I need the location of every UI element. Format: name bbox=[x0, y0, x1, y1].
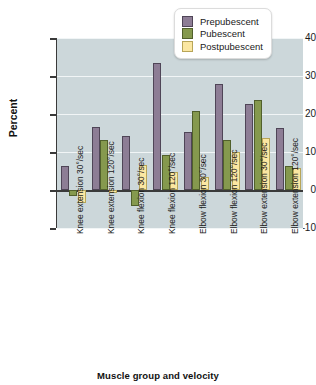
bar-0-2 bbox=[122, 136, 130, 190]
legend-swatch-prepubescent bbox=[182, 16, 193, 27]
legend-swatch-postpubescent bbox=[182, 41, 193, 52]
bar-0-1 bbox=[92, 127, 100, 190]
y-axis-tick bbox=[50, 76, 56, 78]
chart-legend: Prepubescent Pubescent Postpubescent bbox=[174, 8, 272, 59]
x-axis-label: Elbow flexion 120°/sec bbox=[230, 150, 239, 234]
gridline bbox=[57, 76, 303, 77]
bar-0-4 bbox=[184, 132, 192, 190]
y-axis-tick bbox=[50, 190, 56, 192]
x-axis-label: Knee extension 30°/sec bbox=[76, 146, 85, 234]
x-axis-label: Knee extension 120°/sec bbox=[107, 141, 116, 234]
y-axis-tick bbox=[50, 152, 56, 154]
bar-0-3 bbox=[153, 63, 161, 190]
bar-0-6 bbox=[245, 104, 253, 190]
legend-item[interactable]: Postpubescent bbox=[182, 41, 263, 52]
bar-chart: Percent –10010203040 Knee extension 30°/… bbox=[0, 0, 316, 385]
legend-swatch-pubescent bbox=[182, 28, 193, 39]
legend-label: Postpubescent bbox=[200, 41, 263, 52]
x-axis-label: Elbow flexion 30°/sec bbox=[199, 154, 208, 234]
legend-item[interactable]: Pubescent bbox=[182, 28, 263, 39]
bar-0-0 bbox=[61, 166, 69, 190]
x-axis-label: Elbow extension 120°/sec bbox=[291, 138, 300, 234]
y-axis-title: Percent bbox=[7, 87, 19, 149]
x-axis-label: Knee flexion 120°/sec bbox=[168, 153, 177, 234]
y-axis-tick bbox=[50, 228, 56, 230]
x-axis-label: Elbow extension 30°/sec bbox=[260, 143, 269, 234]
legend-label: Prepubescent bbox=[200, 16, 259, 27]
y-axis-tick bbox=[50, 38, 56, 40]
x-axis-title: Muscle group and velocity bbox=[0, 370, 316, 381]
bar-0-7 bbox=[276, 128, 284, 190]
gridline bbox=[57, 114, 303, 115]
bar-0-5 bbox=[215, 84, 223, 190]
legend-label: Pubescent bbox=[200, 28, 245, 39]
y-axis-tick bbox=[50, 114, 56, 116]
x-axis-label: Knee flexion 30°/sec bbox=[137, 158, 146, 234]
legend-item[interactable]: Prepubescent bbox=[182, 16, 263, 27]
